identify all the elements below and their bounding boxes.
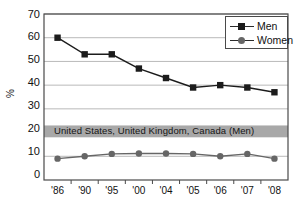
- x-tick-00: '00: [124, 186, 154, 196]
- data-point-women: [244, 151, 250, 157]
- x-tick-08: '08: [259, 186, 289, 196]
- x-tick-86: '86: [43, 186, 73, 196]
- annotation-band-label: United States, United Kingdom, Canada (M…: [54, 125, 254, 136]
- data-point-men: [244, 84, 250, 90]
- chart-container: % 70 60 50 40 30 20 10 0 United States, …: [0, 0, 302, 203]
- data-point-women: [190, 151, 196, 157]
- data-point-women: [81, 153, 87, 159]
- x-tick-90: '90: [70, 186, 100, 196]
- data-point-women: [163, 150, 169, 156]
- data-point-men: [109, 51, 115, 57]
- data-point-men: [190, 84, 196, 90]
- legend-label-men: Men: [257, 21, 277, 32]
- data-point-men: [271, 89, 277, 95]
- legend-label-women: Women: [257, 35, 293, 46]
- data-point-women: [109, 151, 115, 157]
- x-tick-04: '04: [151, 186, 181, 196]
- legend-item-men[interactable]: Men: [230, 19, 277, 33]
- data-point-men: [81, 51, 87, 57]
- data-point-women: [54, 155, 60, 161]
- data-point-men: [54, 35, 60, 41]
- x-tick-06: '06: [205, 186, 235, 196]
- data-point-men: [217, 82, 223, 88]
- data-point-women: [271, 155, 277, 161]
- data-point-men: [136, 65, 142, 71]
- data-point-men: [163, 75, 169, 81]
- x-tick-05: '05: [178, 186, 208, 196]
- legend-marker-square-icon: [230, 20, 254, 32]
- chart-legend[interactable]: Men Women: [225, 16, 288, 49]
- legend-marker-circle-icon: [230, 34, 254, 46]
- x-tick-95: '95: [97, 186, 127, 196]
- legend-item-women[interactable]: Women: [230, 33, 293, 47]
- data-point-women: [217, 153, 223, 159]
- x-tick-07: '07: [232, 186, 262, 196]
- data-point-women: [136, 150, 142, 156]
